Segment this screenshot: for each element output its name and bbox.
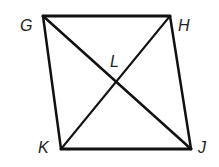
diagonal-GJ <box>43 16 191 149</box>
vertex-label-H: H <box>178 17 190 34</box>
side-HJ <box>170 16 191 149</box>
diagram-canvas: G H L K J <box>0 0 219 167</box>
vertex-label-K: K <box>38 139 50 156</box>
vertex-label-G: G <box>20 17 32 34</box>
side-KG <box>43 16 61 149</box>
diagonal-HK <box>61 16 170 149</box>
intersection-label-L: L <box>110 53 119 70</box>
vertex-label-J: J <box>197 139 207 156</box>
